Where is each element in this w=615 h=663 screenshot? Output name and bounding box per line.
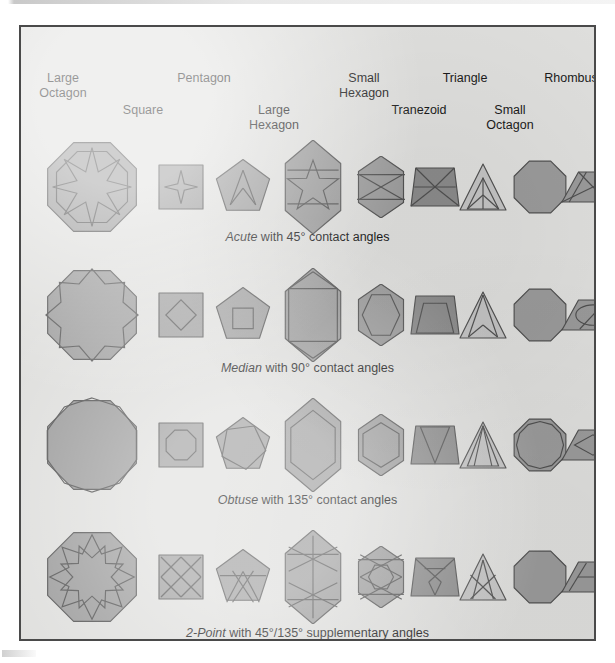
shape-median-col4	[281, 268, 345, 362]
shape-median-col5	[355, 284, 407, 346]
shape-acute-col7	[457, 162, 509, 212]
shape-2point-col9	[560, 560, 596, 594]
shape-2point-col4	[281, 530, 345, 624]
row-caption-rest: with 90° contact angles	[262, 361, 394, 375]
shape-2point-col1	[44, 529, 140, 625]
shape-acute-col3	[214, 159, 272, 215]
shape-header-1: Large Octagon	[19, 71, 123, 100]
shape-obtuse-col5	[355, 414, 407, 476]
shape-header-9: Rhombus	[511, 71, 596, 86]
shape-median-col3	[214, 287, 272, 343]
scan-top-edge	[0, 0, 615, 4]
shape-header-7: Triangle	[405, 71, 525, 86]
shape-median-col7	[457, 290, 509, 340]
shape-acute-col6	[409, 166, 461, 208]
row-caption-2point: 2-Point with 45°/135° supplementary angl…	[21, 626, 594, 640]
shape-header-3: Pentagon	[144, 71, 264, 86]
shape-median-col2	[158, 292, 204, 338]
shape-2point-col2	[158, 554, 204, 600]
scan-artifact-mark	[2, 650, 36, 657]
shape-median-col1	[44, 267, 140, 363]
shape-median-col9	[560, 298, 596, 332]
shape-acute-col4	[281, 140, 345, 234]
shape-acute-col1	[44, 139, 140, 235]
shape-obtuse-col2	[158, 422, 204, 468]
shape-obtuse-col6	[409, 424, 461, 466]
row-caption-lead: Acute	[225, 230, 257, 244]
row-caption-lead: Median	[221, 361, 262, 375]
row-caption-rest: with 45° contact angles	[257, 230, 389, 244]
shape-obtuse-col9	[560, 428, 596, 462]
shape-obtuse-col1	[44, 397, 140, 493]
figure-panel: Large OctagonSquarePentagonLarge Hexagon…	[19, 25, 596, 641]
shape-2point-col6	[409, 556, 461, 598]
shape-obtuse-col3	[214, 417, 272, 473]
row-caption-acute: Acute with 45° contact angles	[21, 230, 594, 244]
shape-header-2: Square	[83, 103, 203, 118]
row-caption-lead: Obtuse	[218, 493, 258, 507]
row-caption-median: Median with 90° contact angles	[21, 361, 594, 375]
row-caption-rest: with 45°/135° supplementary angles	[226, 626, 429, 640]
shape-header-8: Small Octagon	[450, 103, 570, 132]
shape-acute-col9	[560, 170, 596, 204]
shape-median-col6	[409, 294, 461, 336]
shape-acute-col5	[355, 156, 407, 218]
row-caption-lead: 2-Point	[186, 626, 226, 640]
shape-2point-col7	[457, 552, 509, 602]
shape-2point-col3	[214, 549, 272, 605]
row-caption-obtuse: Obtuse with 135° contact angles	[21, 493, 594, 507]
row-caption-rest: with 135° contact angles	[258, 493, 397, 507]
shape-acute-col2	[158, 164, 204, 210]
shape-obtuse-col4	[281, 398, 345, 492]
shape-header-4: Large Hexagon	[214, 103, 334, 132]
shape-2point-col5	[355, 546, 407, 608]
shape-obtuse-col7	[457, 420, 509, 470]
